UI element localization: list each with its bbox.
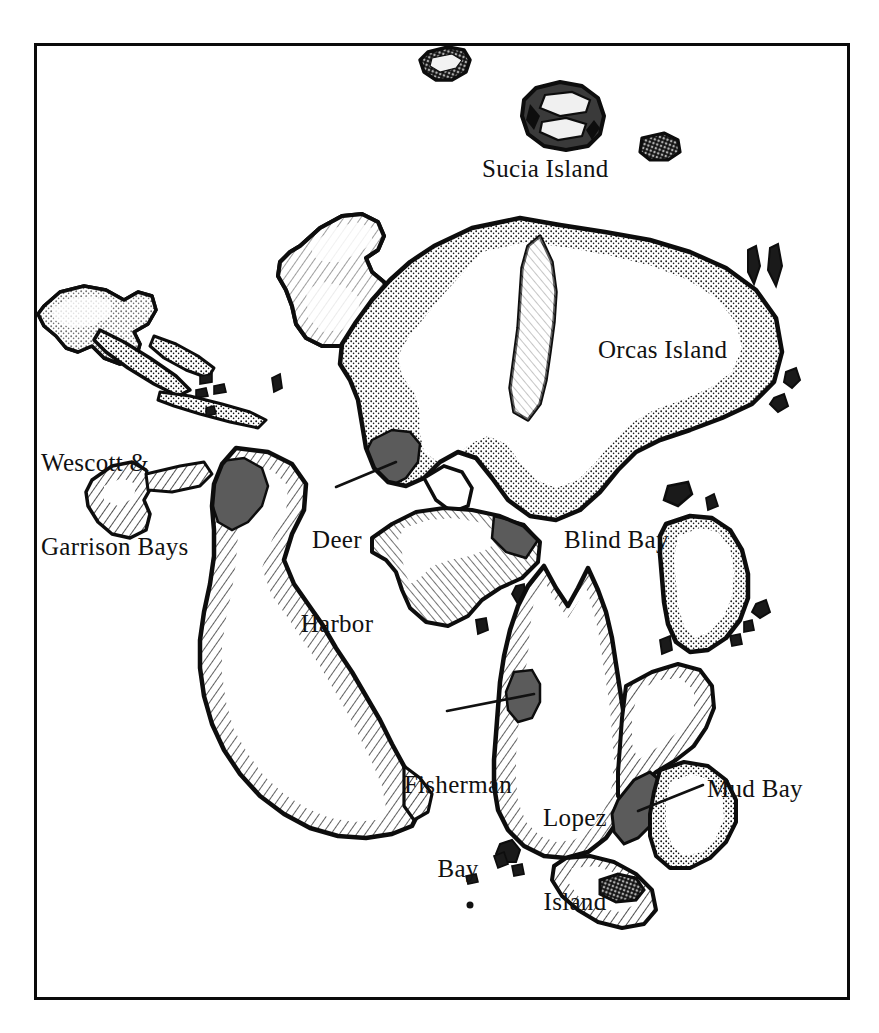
islet-barnes-b [768, 244, 782, 286]
island-clark [640, 133, 680, 160]
islet-lopez-n [660, 636, 672, 654]
map-figure: Sucia Island Orcas Island Wescott & Garr… [0, 0, 879, 1033]
island-sucia [522, 82, 604, 150]
islet-blakely-e2 [744, 620, 754, 632]
island-blakely [660, 482, 748, 652]
label-line-2: Harbor [287, 610, 387, 638]
island-shaw [372, 508, 540, 626]
island-orcas [340, 218, 782, 520]
label-orcas-island: Orcas Island [598, 336, 727, 363]
label-fisherman-bay: Fisherman Bay [396, 715, 520, 939]
label-sucia-island: Sucia Island [482, 155, 609, 182]
islet-shaw-s [476, 618, 488, 634]
islet-orcas-e1 [784, 368, 800, 388]
islet-sentinel [206, 406, 216, 416]
islet-flattop [272, 374, 282, 392]
islet-johns-c [214, 384, 226, 394]
label-line-2: Bay [396, 855, 520, 883]
islet-barnes [748, 246, 760, 284]
label-line-1: Lopez [528, 804, 622, 832]
islet-johns-a [200, 374, 212, 384]
label-line-2: Garrison Bays [41, 533, 189, 561]
label-line-1: Deer [287, 526, 387, 554]
label-blind-bay: Blind Bay [564, 526, 669, 553]
island-matia [420, 47, 470, 80]
label-lopez-island: Lopez Island [528, 748, 622, 972]
label-mud-bay: Mud Bay [707, 775, 803, 802]
label-deer-harbor: Deer Harbor [287, 470, 387, 694]
islet-blakely-n [706, 494, 718, 510]
label-line-1: Wescott & [41, 449, 189, 477]
label-wescott-garrison-bays: Wescott & Garrison Bays [41, 393, 189, 617]
label-line-2: Island [528, 888, 622, 916]
islet-blakely-e1 [752, 600, 770, 618]
islet-blakely-e3 [730, 634, 742, 646]
islet-orcas-e2 [770, 394, 788, 412]
label-line-1: Fisherman [396, 771, 520, 799]
